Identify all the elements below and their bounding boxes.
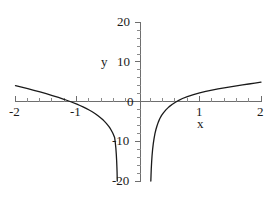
curve-right-branch <box>151 82 261 181</box>
x-tick-label-neg1: -1 <box>70 105 81 118</box>
chart-container: 20 10 0 -10 -20 -2 -1 1 2 y x <box>0 0 270 202</box>
y-tick-label-20: 20 <box>117 15 130 28</box>
y-tick-label-neg20: -20 <box>112 174 129 187</box>
x-tick-label-2: 2 <box>257 105 264 118</box>
x-tick-label-neg2: -2 <box>9 105 20 118</box>
y-tick-label-10: 10 <box>117 55 130 68</box>
y-tick-label-neg10: -10 <box>112 134 129 147</box>
y-tick-label-0: 0 <box>127 95 134 108</box>
x-axis-label: x <box>197 117 204 130</box>
curve-left-branch <box>16 86 118 181</box>
y-axis-label: y <box>101 55 108 68</box>
function-plot <box>0 0 270 202</box>
